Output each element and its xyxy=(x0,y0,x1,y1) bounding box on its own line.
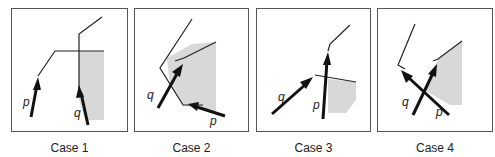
arrowhead-p-icon xyxy=(323,52,331,65)
case-4-diagram: q p xyxy=(378,9,494,133)
arrowhead-p-icon xyxy=(33,77,41,90)
case-4-panel: q p xyxy=(377,8,493,132)
polygon-edge-q xyxy=(398,24,415,69)
case-1-panel: p q xyxy=(11,8,128,132)
case-3-panel: q p xyxy=(256,8,371,132)
arrow-p xyxy=(323,61,327,119)
case-1-caption: Case 1 xyxy=(11,141,128,155)
label-q: q xyxy=(74,106,81,120)
arrow-p xyxy=(413,73,433,115)
case-4-caption: Case 4 xyxy=(377,141,493,155)
label-q: q xyxy=(278,90,285,104)
case-2-caption: Case 2 xyxy=(134,141,249,155)
label-q: q xyxy=(147,88,154,102)
label-p: p xyxy=(312,98,320,112)
case-2-diagram: q p xyxy=(135,9,250,133)
case-1-diagram: p q xyxy=(12,9,129,133)
label-q: q xyxy=(402,95,409,109)
case-3-caption: Case 3 xyxy=(256,141,371,155)
shaded-region xyxy=(79,51,104,120)
label-p: p xyxy=(22,95,30,109)
label-p: p xyxy=(209,114,217,128)
polygon-edge-p xyxy=(328,25,350,51)
label-p: p xyxy=(435,105,443,119)
case-3-diagram: q p xyxy=(257,9,372,133)
shaded-region xyxy=(328,79,356,113)
arrowhead-p-icon xyxy=(428,64,437,77)
case-2-panel: q p xyxy=(134,8,249,132)
